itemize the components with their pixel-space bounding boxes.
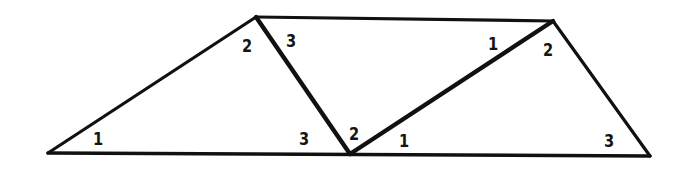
angle-label-right-triangle-1-top: 1 xyxy=(488,36,498,53)
angle-label-right-triangle-1-bottom: 1 xyxy=(399,133,409,150)
angle-label-middle-triangle-3-top: 3 xyxy=(286,33,296,50)
angle-label-right-triangle-2: 2 xyxy=(543,42,553,59)
angle-label-middle-triangle-3-bottom: 3 xyxy=(299,131,309,148)
geometry-figure: 1 2 3 3 2 1 1 2 3 xyxy=(0,0,680,171)
angle-label-right-triangle-3: 3 xyxy=(604,133,614,150)
angle-label-left-triangle-1: 1 xyxy=(93,131,103,148)
angle-label-middle-triangle-2: 2 xyxy=(349,126,359,143)
angle-label-left-triangle-2: 2 xyxy=(242,38,252,55)
